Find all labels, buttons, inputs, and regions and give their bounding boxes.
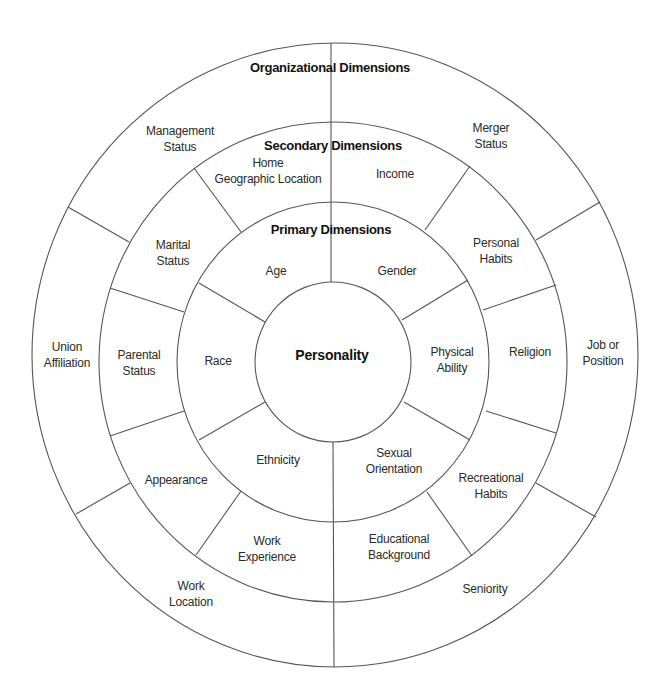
segment-line: Seniority [463,581,508,597]
segment-line: Work [169,578,213,594]
divider-sec-marital-parental [110,288,184,312]
segment-line: Income [376,166,414,182]
segment-line: Marital [156,237,191,253]
divider-sec-appearance-workexp [196,491,241,555]
segment-work-experience: Work Experience [238,533,296,565]
segment-job-or-position: Job or Position [582,337,623,369]
divider-org-union-worklocation [76,483,130,514]
segment-line: Educational [368,531,430,547]
segment-line: Merger [473,120,510,136]
segment-line: Parental [117,347,160,363]
segment-line: Ability [430,360,473,376]
segment-sexual-orientation: Sexual Orientation [366,445,423,477]
segment-line: Appearance [145,472,208,488]
segment-line: Status [156,253,191,269]
segment-physical-ability: Physical Ability [430,344,473,376]
segment-line: Experience [238,549,296,565]
divider-org-management-union [68,207,129,242]
personality-text: Personality [295,347,368,363]
segment-line: Sexual [366,445,423,461]
segment-marital-status: Marital Status [156,237,191,269]
segment-union-affiliation: Union Affiliation [44,339,90,371]
divider-bottom-vertical [333,442,334,667]
divider-sec-religion-recreational [486,411,556,433]
segment-line: Personal [473,235,519,251]
segment-line: Management [146,123,214,139]
divider-org-merger-job [536,202,600,240]
segment-line: Age [266,263,287,279]
divider-pri-gender-physical [402,280,468,320]
segment-line: Orientation [366,461,423,477]
divider-sec-income-personal [425,166,470,230]
segment-line: Habits [459,486,524,502]
segment-age: Age [266,263,287,279]
divider-sec-parental-appearance [110,411,184,436]
segment-line: Recreational [459,470,524,486]
divider-pri-age-race [199,283,265,322]
segment-recreational-habits: Recreational Habits [459,470,524,502]
segment-home-geographic-location: Home Geographic Location [215,155,322,187]
segment-line: Home [215,155,322,171]
divider-org-job-seniority [536,483,596,517]
segment-line: Geographic Location [215,171,322,187]
segment-parental-status: Parental Status [117,347,160,379]
segment-ethnicity: Ethnicity [256,452,300,468]
segment-line: Race [204,353,231,369]
segment-line: Status [117,363,160,379]
organizational-dimensions-title: Organizational Dimensions [250,60,410,76]
segment-gender: Gender [378,263,417,279]
segment-line: Religion [509,344,551,360]
segment-line: Position [582,353,623,369]
divider-pri-physical-sexual [404,402,470,440]
segment-line: Status [146,139,214,155]
secondary-dimensions-title: Secondary Dimensions [264,138,402,154]
segment-line: Physical [430,344,473,360]
segment-appearance: Appearance [145,472,208,488]
segment-line: Habits [473,251,519,267]
segment-line: Union [44,339,90,355]
segment-line: Status [473,136,510,152]
segment-personal-habits: Personal Habits [473,235,519,267]
segment-race: Race [204,353,231,369]
segment-educational-background: Educational Background [368,531,430,563]
segment-line: Affiliation [44,355,90,371]
segment-line: Work [238,533,296,549]
primary-title-text: Primary Dimensions [271,222,391,238]
segment-line: Gender [378,263,417,279]
personality-core-label: Personality [295,347,368,363]
primary-dimensions-title: Primary Dimensions [271,222,391,238]
segment-line: Background [368,547,430,563]
segment-line: Location [169,594,213,610]
segment-religion: Religion [509,344,551,360]
segment-management-status: Management Status [146,123,214,155]
segment-line: Job or [582,337,623,353]
segment-income: Income [376,166,414,182]
organizational-title-text: Organizational Dimensions [250,60,410,76]
divider-sec-personal-religion [483,285,556,310]
divider-pri-race-ethnicity [199,402,265,440]
segment-merger-status: Merger Status [473,120,510,152]
secondary-title-text: Secondary Dimensions [264,138,402,154]
segment-work-location: Work Location [169,578,213,610]
segment-line: Ethnicity [256,452,300,468]
segment-seniority: Seniority [463,581,508,597]
